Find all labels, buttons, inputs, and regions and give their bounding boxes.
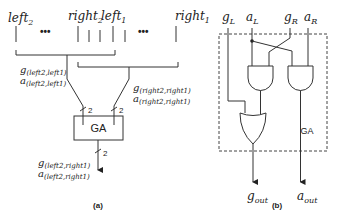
panel-b: gL aL gR aR GA gout aout ( — [219, 10, 327, 210]
bus-left — [67, 55, 83, 125]
and-gate-left — [248, 66, 273, 91]
caption-a: (a) — [93, 201, 103, 210]
wire-gL — [228, 28, 245, 113]
bracket-right — [78, 62, 178, 67]
label-aR: aR — [304, 10, 317, 26]
label-right1: right1 — [175, 9, 210, 25]
ellipsis-left: ••• — [40, 26, 51, 37]
label-g-right-pair: g(right2,right1) — [133, 82, 191, 95]
bus-width-left: 2 — [88, 106, 93, 115]
caption-b: (b) — [272, 201, 283, 210]
and-gate-right — [288, 66, 313, 91]
wire-aL-branch — [252, 41, 292, 66]
label-g-left-pair: g(left2,left1) — [20, 64, 67, 77]
or-gate — [240, 113, 266, 144]
label-aout: aout — [297, 189, 318, 205]
label-g-output: g(left2,right1) — [38, 157, 90, 170]
label-left1: left1 — [101, 9, 126, 25]
ga-block-label: GA — [91, 122, 108, 134]
bus-width-right: 2 — [119, 106, 124, 115]
label-right2: right2 — [68, 9, 103, 25]
label-gout: gout — [247, 189, 269, 205]
bracket-left — [16, 50, 115, 55]
ellipsis-right: ••• — [138, 26, 149, 37]
label-aL: aL — [246, 10, 258, 26]
label-left2: left2 — [8, 11, 33, 27]
label-gR: gR — [284, 10, 298, 26]
bus-width-out: 2 — [103, 149, 108, 158]
ga-boundary-label: GA — [300, 126, 313, 136]
panel-a: left2 right2 left1 right1 ••• ••• 2 2 g(… — [8, 9, 210, 210]
diagram: left2 right2 left1 right1 ••• ••• 2 2 g(… — [0, 0, 337, 220]
label-gL: gL — [222, 10, 235, 26]
